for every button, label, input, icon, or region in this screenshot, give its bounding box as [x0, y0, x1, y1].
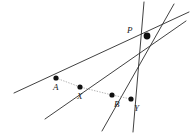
point-label-b: B	[114, 100, 120, 109]
point-label-x: X	[77, 92, 83, 101]
geometry-figure: P A X B Y	[0, 0, 191, 138]
point-marker-p	[144, 33, 151, 40]
point-label-a: A	[53, 83, 59, 92]
point-marker-a	[53, 75, 58, 80]
point-marker-y	[128, 96, 133, 101]
point-marker-x	[77, 84, 82, 89]
point-marker-b	[109, 92, 114, 97]
transversal-dotted-line	[56, 78, 131, 99]
point-label-y: Y	[134, 104, 139, 113]
figure-canvas	[0, 0, 191, 138]
point-label-p: P	[127, 26, 133, 35]
